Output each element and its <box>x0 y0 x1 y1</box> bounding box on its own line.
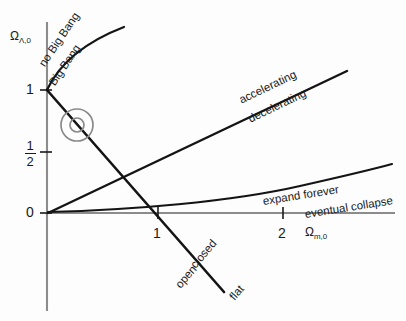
y-tick-half-numerator: 1 <box>21 139 39 152</box>
y-axis-label-symbol: Ω <box>10 29 19 43</box>
y-tick-label-1: 1 <box>26 82 34 96</box>
y-axis-label: ΩΛ,0 <box>10 30 31 45</box>
y-tick-label-0: 0 <box>26 205 34 219</box>
plot-canvas <box>0 0 406 321</box>
y-axis-label-subscript: Λ,0 <box>19 36 31 45</box>
x-axis-label: Ωm,0 <box>305 226 327 241</box>
x-tick-label-1: 1 <box>153 226 161 240</box>
x-tick-label-2: 2 <box>278 226 286 240</box>
x-axis-label-subscript: m,0 <box>314 232 327 241</box>
y-tick-label-half: 1 2 <box>21 139 39 169</box>
x-axis-label-symbol: Ω <box>305 225 314 239</box>
y-tick-half-denominator: 2 <box>21 155 39 168</box>
cosmology-parameter-space-figure: ΩΛ,0 Ωm,0 1 1 2 0 1 2 no Big Bang Big Ba… <box>0 0 406 321</box>
